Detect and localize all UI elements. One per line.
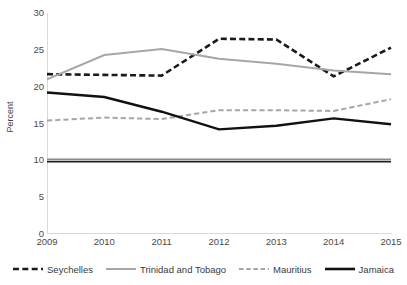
- y-axis-tick-label: 5: [18, 192, 44, 202]
- legend-item[interactable]: Seychelles: [13, 264, 93, 275]
- legend-label: Jamaica: [359, 264, 394, 275]
- x-axis-tick-label: 2009: [25, 236, 69, 248]
- legend-label: Mauritius: [273, 264, 312, 275]
- x-axis-tick-label: 2013: [254, 236, 298, 248]
- x-axis-tick-labels: 2009201020112012201320142015: [0, 236, 407, 252]
- plot-svg: [47, 13, 392, 234]
- x-axis-tick-label: 2012: [197, 236, 241, 248]
- y-axis-tick-label: 15: [18, 119, 44, 129]
- legend-label: Seychelles: [47, 264, 93, 275]
- legend-item[interactable]: Jamaica: [325, 264, 394, 275]
- legend-swatch-icon: [13, 264, 43, 274]
- series-line-mauritius: [47, 99, 391, 120]
- legend-swatch-icon: [325, 264, 355, 274]
- y-axis-tick-label: 25: [18, 45, 44, 55]
- legend-item[interactable]: Trinidad and Tobago: [106, 264, 226, 275]
- legend-swatch-icon: [106, 264, 136, 274]
- x-axis-tick-label: 2011: [140, 236, 184, 248]
- legend-item[interactable]: Mauritius: [239, 264, 312, 275]
- x-axis-tick-label: 2014: [312, 236, 356, 248]
- y-axis-tick-label: 10: [18, 155, 44, 165]
- y-axis-tick-label: 20: [18, 82, 44, 92]
- y-axis-tick-label: 30: [18, 8, 44, 18]
- legend-label: Trinidad and Tobago: [140, 264, 226, 275]
- legend-swatch-icon: [239, 264, 269, 274]
- plot-area: [47, 13, 392, 234]
- x-axis-tick-label: 2010: [82, 236, 126, 248]
- chart-legend: SeychellesTrinidad and TobagoMauritiusJa…: [0, 258, 407, 280]
- x-axis-tick-label: 2015: [369, 236, 407, 248]
- line-chart: Percent 051015202530 2009201020112012201…: [0, 0, 407, 285]
